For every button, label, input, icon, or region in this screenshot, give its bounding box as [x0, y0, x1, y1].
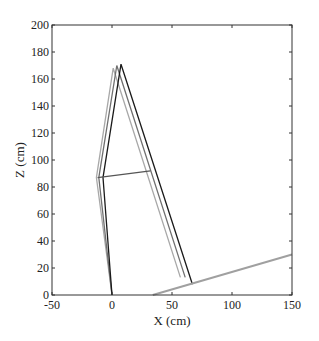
y-tick-label: 20: [37, 261, 49, 275]
y-tick-label: 120: [31, 126, 49, 140]
series-ground-slope: [153, 255, 292, 296]
x-tick-labels: -50050100150: [44, 298, 301, 312]
x-tick-label: 0: [109, 298, 115, 312]
y-tick-label: 200: [31, 18, 49, 32]
plot-lines: [96, 64, 292, 295]
y-tick-label: 100: [31, 153, 49, 167]
y-tick-labels: 020406080100120140160180200: [31, 18, 49, 302]
y-tick-label: 140: [31, 99, 49, 113]
y-tick-label: 40: [37, 234, 49, 248]
series-posture-dark: [103, 64, 192, 295]
y-axis-label: Z (cm): [12, 142, 27, 178]
y-tick-label: 60: [37, 207, 49, 221]
y-tick-label: 0: [43, 288, 49, 302]
x-tick-label: 50: [166, 298, 178, 312]
x-tick-label: 150: [283, 298, 301, 312]
axes-frame: [52, 25, 292, 295]
y-tick-label: 180: [31, 45, 49, 59]
series-crossbar: [98, 171, 151, 178]
series-posture-mid: [99, 66, 185, 296]
y-tick-label: 80: [37, 180, 49, 194]
chart-canvas: -50050100150 020406080100120140160180200…: [0, 0, 319, 341]
x-axis-label: X (cm): [153, 313, 190, 328]
y-tick-label: 160: [31, 72, 49, 86]
axis-ticks: [52, 25, 292, 295]
x-tick-label: 100: [223, 298, 241, 312]
